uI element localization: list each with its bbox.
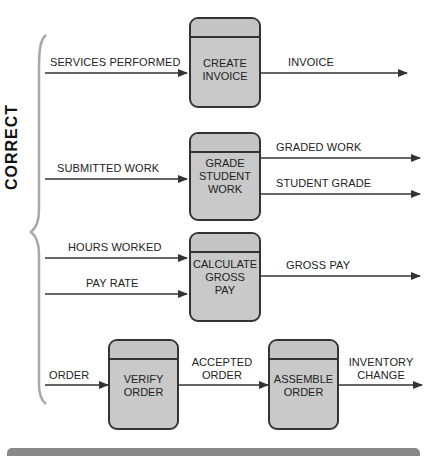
flow-label-output: INVOICE xyxy=(288,56,334,69)
flow-label-output: INVENTORY CHANGE xyxy=(343,356,419,382)
flow-label-output: GROSS PAY xyxy=(286,259,350,272)
flow-label-output: GRADED WORK xyxy=(276,141,361,154)
process-name: CALCULATE GROSS PAY xyxy=(191,258,259,297)
flow-label-input: PAY RATE xyxy=(86,277,139,290)
process-header xyxy=(110,341,177,360)
flow-label-input: SUBMITTED WORK xyxy=(57,162,159,175)
process-name: VERIFY ORDER xyxy=(110,373,177,399)
process-name: CREATE INVOICE xyxy=(191,57,259,83)
process-header xyxy=(191,234,259,253)
process-header xyxy=(191,19,259,38)
flow-label-output: STUDENT GRADE xyxy=(276,177,371,190)
footer-bar xyxy=(7,448,420,456)
process-calculate-gross-pay: CALCULATE GROSS PAY xyxy=(189,232,261,322)
process-grade-student-work: GRADE STUDENT WORK xyxy=(189,132,261,221)
process-name: ASSEMBLE ORDER xyxy=(270,373,337,399)
side-label-correct: CORRECT xyxy=(3,104,21,190)
flow-label-input: HOURS WORKED xyxy=(68,241,161,254)
flow-label-input: SERVICES PERFORMED xyxy=(50,56,181,69)
process-name: GRADE STUDENT WORK xyxy=(191,157,259,196)
flow-label-middle: ACCEPTED ORDER xyxy=(186,356,258,382)
bracket-brace xyxy=(31,35,46,404)
process-verify-order: VERIFY ORDER xyxy=(108,339,179,430)
process-header xyxy=(191,134,259,153)
process-header xyxy=(270,341,337,360)
process-assemble-order: ASSEMBLE ORDER xyxy=(268,339,339,430)
process-create-invoice: CREATE INVOICE xyxy=(189,17,261,108)
flow-label-input: ORDER xyxy=(49,369,89,382)
